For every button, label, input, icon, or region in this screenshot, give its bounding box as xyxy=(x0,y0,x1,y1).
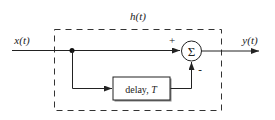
input-label: x(t) xyxy=(13,34,30,47)
delay-text: delay, T xyxy=(125,84,158,95)
delay-output-line xyxy=(171,62,192,89)
minus-sign: - xyxy=(198,63,202,75)
branch-line xyxy=(73,51,113,89)
output-label: y(t) xyxy=(241,34,258,47)
sum-icon: Σ xyxy=(188,44,196,59)
system-label: h(t) xyxy=(130,10,146,23)
plus-sign: + xyxy=(169,34,175,46)
delay-block: delay, T xyxy=(113,77,172,102)
summing-junction: Σ xyxy=(182,41,202,61)
block-diagram: h(t) x(t) y(t) delay, T Σ + - xyxy=(0,0,275,120)
